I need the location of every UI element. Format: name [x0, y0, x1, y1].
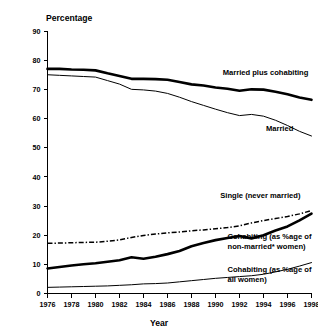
series-annotation-4: non-married* women) [228, 242, 307, 251]
y-tick-label: 50 [33, 143, 41, 152]
y-tick-label: 80 [33, 56, 41, 65]
series-annotation-1: Married [266, 124, 294, 133]
y-axis-ticks: 0102030405060708090 [33, 27, 48, 299]
series-annotations: Married plus cohabitingMarriedSingle (ne… [220, 68, 312, 284]
x-tick-label: 1998 [304, 300, 319, 309]
y-tick-label: 40 [33, 173, 41, 182]
y-axis-title: Percentage [46, 13, 93, 23]
series-annotation-6: all women) [228, 275, 268, 284]
y-tick-label: 30 [33, 202, 41, 211]
x-tick-label: 1990 [208, 300, 224, 309]
series-annotation-3: Cohabiting (as %age of [228, 232, 312, 241]
y-tick-label: 70 [33, 85, 41, 94]
y-tick-label: 90 [33, 27, 41, 36]
y-tick-label: 60 [33, 114, 41, 123]
x-tick-label: 1978 [64, 300, 80, 309]
series-annotation-5: Cohabiting (as %age of [228, 265, 312, 274]
x-tick-label: 1996 [280, 300, 296, 309]
x-axis-ticks: 1976197819801982198419861988199019921994… [40, 294, 319, 309]
series-annotation-2: Single (never married) [220, 191, 301, 200]
y-tick-label: 20 [33, 231, 41, 240]
x-tick-label: 1988 [184, 300, 200, 309]
y-tick-label: 10 [33, 260, 41, 269]
x-tick-label: 1984 [136, 300, 152, 309]
x-tick-label: 1976 [40, 300, 56, 309]
line-chart: Percentage 0102030405060708090 197619781… [0, 0, 318, 334]
data-series-group [48, 69, 312, 287]
series-annotation-0: Married plus cohabiting [223, 68, 309, 77]
y-tick-label: 0 [37, 289, 41, 298]
chart-container: Percentage 0102030405060708090 197619781… [0, 0, 318, 334]
x-tick-label: 1994 [256, 300, 272, 309]
x-tick-label: 1980 [88, 300, 104, 309]
x-tick-label: 1982 [112, 300, 128, 309]
x-tick-label: 1992 [232, 300, 248, 309]
x-axis-title: Year [150, 318, 169, 328]
x-tick-label: 1986 [160, 300, 176, 309]
